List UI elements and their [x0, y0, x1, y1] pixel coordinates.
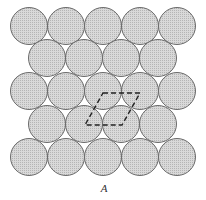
atom-circles: [11, 8, 196, 176]
atom-circle: [85, 73, 122, 110]
atom-circle: [11, 139, 48, 176]
atom-circle: [159, 8, 196, 45]
atom-circle: [85, 139, 122, 176]
atom-circle: [85, 8, 122, 45]
atom-circle: [48, 8, 85, 45]
atom-circle: [48, 73, 85, 110]
atom-circle: [66, 40, 103, 77]
atom-circle: [103, 106, 140, 143]
atom-circle: [122, 73, 159, 110]
atom-circle: [159, 73, 196, 110]
atom-circle: [66, 106, 103, 143]
figure-label: A: [97, 182, 111, 194]
atom-circle: [29, 40, 66, 77]
atom-circle: [122, 8, 159, 45]
atom-circle: [103, 40, 140, 77]
atom-circle: [122, 139, 159, 176]
atom-circle: [48, 139, 85, 176]
atom-circle: [140, 40, 177, 77]
atom-circle: [140, 106, 177, 143]
close-packed-layer-diagram: [0, 0, 206, 200]
atom-circle: [29, 106, 66, 143]
atom-circle: [11, 73, 48, 110]
atom-circle: [11, 8, 48, 45]
atom-circle: [159, 139, 196, 176]
